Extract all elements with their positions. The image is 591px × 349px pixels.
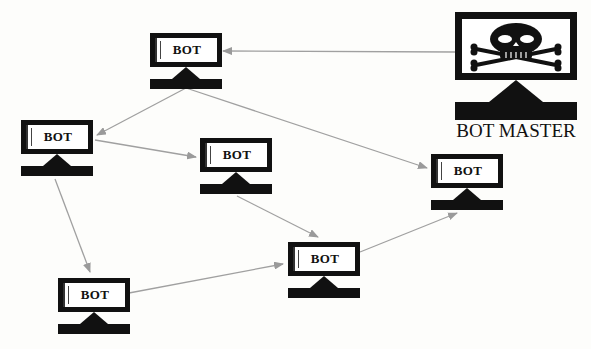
edge-master-bot1 [223, 51, 455, 52]
bot-master-node: BOT MASTER [455, 12, 577, 142]
monitor-stand [453, 188, 481, 200]
bot-master-label: BOT MASTER [445, 120, 587, 142]
bot-label: BOT [81, 287, 109, 303]
monitor-base [58, 324, 130, 334]
skull-crossbones-icon [462, 19, 570, 73]
monitor-icon: BOT [200, 138, 272, 172]
edge-bot3-bot5 [237, 196, 318, 237]
monitor-icon: BOT [150, 33, 222, 67]
bot-label: BOT [454, 163, 482, 179]
bot-node-3: BOT [200, 138, 272, 196]
bot-node-4: BOT [431, 154, 503, 212]
monitor-base [288, 288, 360, 298]
edge-bot2-bot6 [55, 179, 90, 272]
monitor-stand [80, 312, 108, 324]
bot-label: BOT [223, 147, 251, 163]
botnet-diagram: BOT MASTER BOT BOT BOT BOT BOT BOT [0, 0, 591, 349]
bot-node-1: BOT [150, 33, 222, 91]
master-monitor [455, 12, 577, 80]
monitor-base [150, 79, 222, 89]
monitor-icon: BOT [58, 278, 130, 312]
edge-bot2-bot3 [95, 140, 196, 157]
edge-bot1-bot2 [97, 88, 186, 135]
monitor-base [431, 200, 503, 210]
master-base [455, 102, 577, 120]
monitor-stand [222, 172, 250, 184]
monitor-icon: BOT [431, 154, 503, 188]
monitor-stand [172, 67, 200, 79]
monitor-base [21, 166, 93, 176]
edge-bot6-bot5 [129, 264, 283, 293]
bot-node-6: BOT [58, 278, 130, 336]
bot-label: BOT [311, 251, 339, 267]
monitor-base [200, 184, 272, 194]
master-stand [489, 80, 543, 102]
monitor-stand [310, 276, 338, 288]
bot-node-5: BOT [288, 242, 360, 300]
bot-node-2: BOT [21, 120, 93, 178]
monitor-icon: BOT [21, 120, 93, 154]
bot-label: BOT [44, 129, 72, 145]
bot-label: BOT [173, 42, 201, 58]
monitor-icon: BOT [288, 242, 360, 276]
monitor-stand [43, 154, 71, 166]
edge-bot5-bot4 [360, 213, 457, 252]
